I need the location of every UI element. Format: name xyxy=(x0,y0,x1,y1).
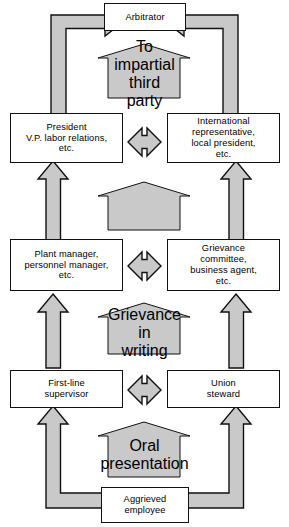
box-arbitrator-label: Arbitrator xyxy=(123,12,166,23)
stage-label-oral-presentation: Oralpresentation xyxy=(0,432,289,477)
double-arrow-president-international xyxy=(128,128,161,156)
double-arrow-supervisor-steward xyxy=(128,376,161,404)
box-aggrieved-employee-label: Aggrievedemployee xyxy=(122,494,169,516)
box-grievance-committee-label: Grievancecommittee,business agent,etc. xyxy=(188,243,259,287)
box-president-label: PresidentV.P. labor relations,etc. xyxy=(24,122,109,155)
box-first-line-supervisor[interactable]: First-linesupervisor xyxy=(10,370,123,408)
box-plant-manager-label: Plant manager,personnel manager,etc. xyxy=(23,249,111,282)
box-international-representative[interactable]: Internationalrepresentative,local presid… xyxy=(167,113,280,163)
box-grievance-committee[interactable]: Grievancecommittee,business agent,etc. xyxy=(167,239,280,291)
stage-label-grievance-in-writing: Grievanceinwriting xyxy=(0,311,289,354)
stage-shape-blank xyxy=(98,182,190,230)
box-union-steward[interactable]: Unionsteward xyxy=(167,370,280,408)
arrow-up-right-committee-to-international xyxy=(221,161,251,240)
stage-label-to-impartial-third-party: Toimpartialthirdparty xyxy=(0,50,289,98)
box-aggrieved-employee[interactable]: Aggrievedemployee xyxy=(101,487,189,523)
box-first-line-supervisor-label: First-linesupervisor xyxy=(43,378,91,400)
box-president[interactable]: PresidentV.P. labor relations,etc. xyxy=(10,113,123,163)
box-union-steward-label: Unionsteward xyxy=(205,378,242,400)
double-arrow-plant-manager-committee xyxy=(128,252,161,280)
box-plant-manager[interactable]: Plant manager,personnel manager,etc. xyxy=(10,239,123,291)
arrow-up-left-plant-manager-to-president xyxy=(38,161,68,240)
box-arbitrator[interactable]: Arbitrator xyxy=(104,3,186,31)
grievance-flow-diagram: .a{fill:#c9c9c9;stroke:#111;stroke-width… xyxy=(0,0,289,527)
box-international-representative-label: Internationalrepresentative,local presid… xyxy=(189,116,257,160)
